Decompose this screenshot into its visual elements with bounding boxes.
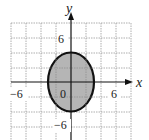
- x-tick-6: 6: [111, 87, 117, 101]
- y-tick-neg6: −6: [54, 118, 67, 132]
- x-axis-label: x: [135, 75, 143, 90]
- origin-label: 0: [60, 87, 66, 101]
- y-axis-label: y: [64, 1, 73, 16]
- ellipse-graph: y x 6 −6 0 6 −6: [0, 0, 149, 140]
- x-axis-arrow-icon: [125, 79, 133, 85]
- y-tick-6: 6: [58, 32, 64, 46]
- x-tick-neg6: −6: [10, 87, 23, 101]
